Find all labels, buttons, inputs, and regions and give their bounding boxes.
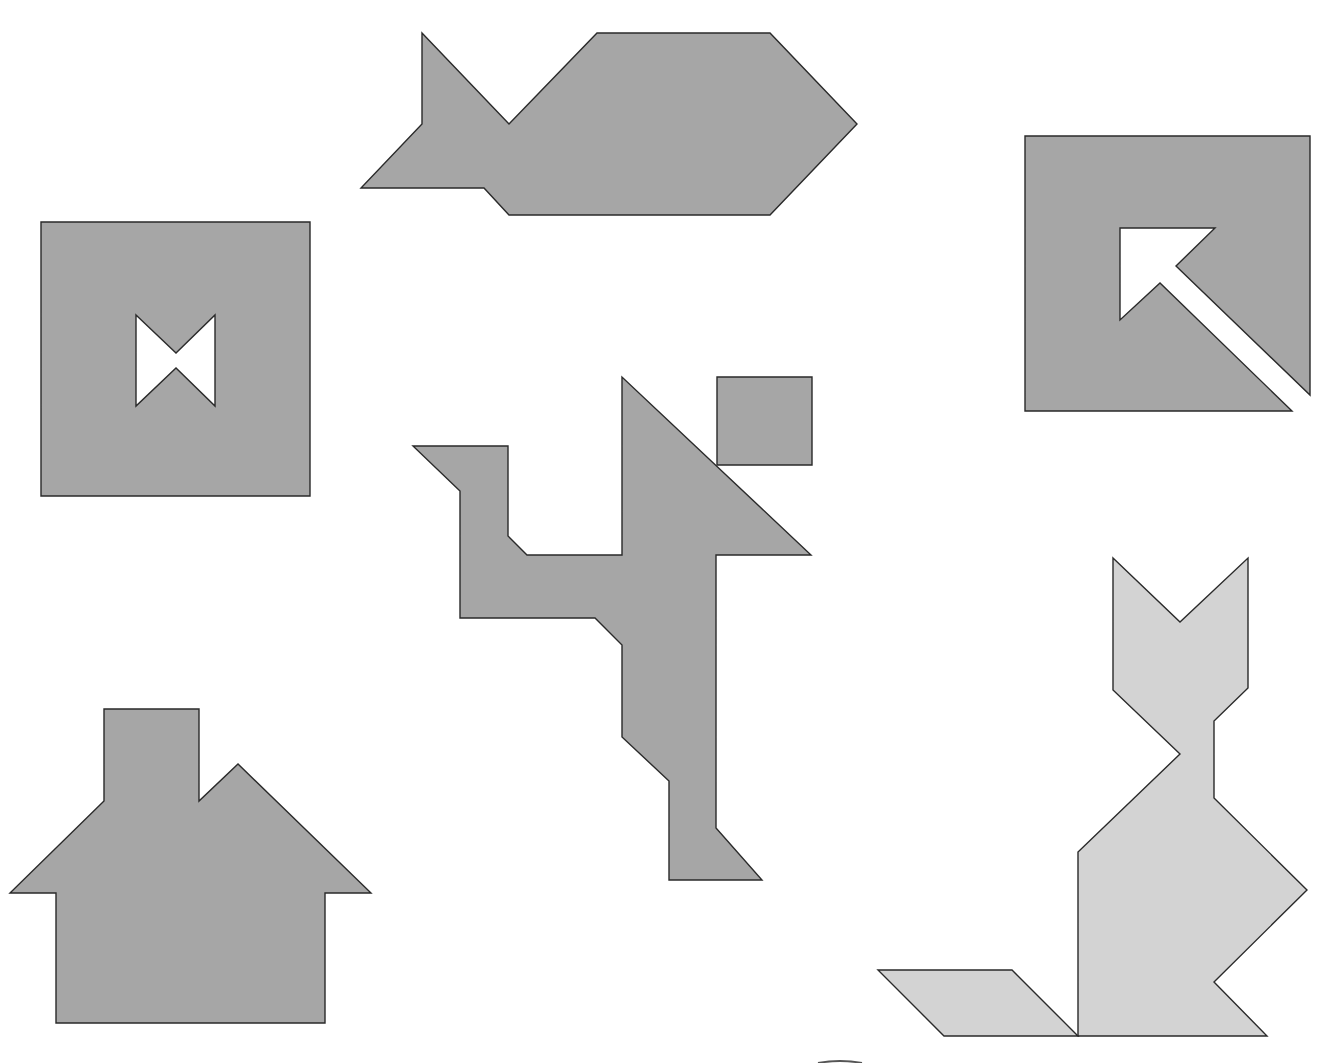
fish-figure: Fish <box>361 33 857 215</box>
square-with-bowtie-figure: Square with bowtie hole <box>41 222 310 496</box>
tangram-figures: FishSquare with bowtie holeSquare with a… <box>10 33 1310 1036</box>
cat-figure: Cat <box>1078 558 1307 1036</box>
house-figure: House <box>10 709 371 1023</box>
cat-tail-figure: Cat tail parallelogram <box>878 970 1078 1036</box>
square-with-arrow-figure: Square with arrow cut-out <box>1025 136 1310 411</box>
tangram-canvas: FishSquare with bowtie holeSquare with a… <box>0 0 1324 1063</box>
runner-head-figure: Runner head square <box>717 377 812 465</box>
